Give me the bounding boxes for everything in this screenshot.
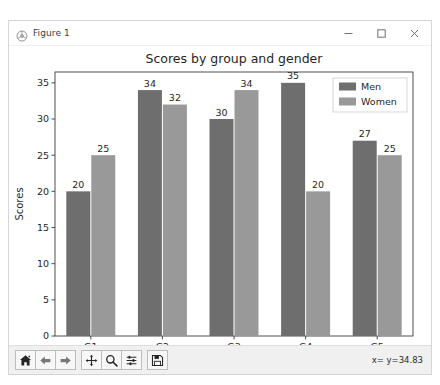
legend-swatch (339, 98, 356, 106)
bar (281, 83, 305, 336)
bar (235, 90, 259, 336)
figure-canvas[interactable]: Scores by group and gender05101520253035… (9, 46, 431, 345)
bar-value-label: 20 (72, 179, 84, 190)
home-button[interactable] (15, 350, 36, 370)
y-axis-tick-label: 15 (37, 222, 49, 233)
chart-legend: MenWomen (333, 78, 407, 112)
bar (306, 191, 330, 336)
bar (378, 155, 402, 336)
figure-window: Figure 1 Scores by group and gender05101… (8, 20, 432, 375)
y-axis-tick-label: 10 (37, 258, 49, 269)
maximize-icon[interactable] (365, 21, 398, 45)
bar-value-label: 25 (97, 143, 109, 154)
pan-button[interactable] (81, 350, 102, 370)
bar-value-label: 34 (144, 78, 156, 89)
legend-label: Women (361, 96, 397, 107)
y-axis-tick-label: 0 (43, 330, 49, 341)
bar (138, 90, 162, 336)
bar-value-label: 20 (312, 179, 324, 190)
configure-subplots-button[interactable] (121, 350, 142, 370)
save-button[interactable] (147, 350, 168, 370)
toolbar-group-tools (81, 350, 141, 370)
coordinate-readout: x= y=34.83 (372, 346, 423, 374)
y-axis-tick-label: 30 (37, 113, 49, 124)
y-axis-label: Scores (14, 187, 25, 220)
bar-value-label: 30 (215, 107, 227, 118)
y-axis-tick-label: 20 (37, 186, 49, 197)
bar (66, 191, 90, 336)
zoom-button[interactable] (101, 350, 122, 370)
bar-value-label: 34 (240, 78, 252, 89)
close-icon[interactable] (398, 21, 431, 45)
matplotlib-icon (16, 27, 28, 39)
legend-swatch (339, 83, 356, 91)
bar-value-label: 32 (169, 92, 181, 103)
bar (163, 105, 187, 336)
back-button[interactable] (35, 350, 56, 370)
toolbar-group-save (147, 350, 167, 370)
bar (353, 141, 377, 336)
minimize-icon[interactable] (332, 21, 365, 45)
forward-button[interactable] (55, 350, 76, 370)
bar (91, 155, 115, 336)
window-title: Figure 1 (33, 28, 70, 38)
y-axis-tick-label: 5 (43, 294, 49, 305)
bar-value-label: 27 (359, 128, 371, 139)
toolbar-group-navigation (15, 350, 75, 370)
chart-title: Scores by group and gender (146, 51, 324, 66)
bar-value-label: 35 (287, 70, 299, 81)
legend-label: Men (361, 81, 381, 92)
bar-value-label: 25 (384, 143, 396, 154)
y-axis-tick-label: 35 (37, 77, 49, 88)
y-axis-tick-label: 25 (37, 150, 49, 161)
window-controls (332, 21, 431, 45)
window-titlebar[interactable]: Figure 1 (9, 21, 431, 46)
bar-chart: Scores by group and gender05101520253035… (9, 46, 431, 345)
navigation-toolbar: x= y=34.83 (9, 345, 431, 374)
bar (210, 119, 234, 336)
